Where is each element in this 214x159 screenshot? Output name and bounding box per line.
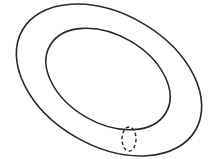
torus-diagram <box>0 0 214 159</box>
inner-ellipse <box>28 7 188 150</box>
cross-section-dashed-ellipse <box>122 127 136 151</box>
outer-ellipse <box>0 0 214 159</box>
